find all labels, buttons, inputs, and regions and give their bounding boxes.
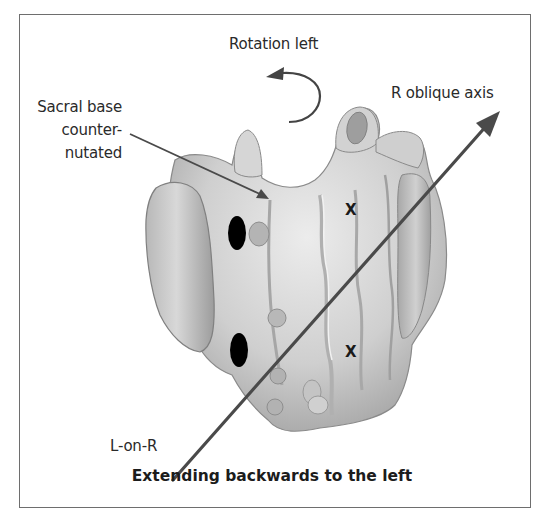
landmark-oval-lower bbox=[230, 333, 248, 367]
callout-line-1: Sacral base bbox=[32, 98, 122, 116]
rotation-left-label: Rotation left bbox=[229, 35, 318, 53]
l-on-r-label: L-on-R bbox=[110, 437, 157, 455]
sacrum-bone bbox=[146, 107, 447, 431]
callout-line-3: nutated bbox=[32, 144, 122, 162]
rotation-left-arrow bbox=[266, 67, 320, 122]
x-marker-upper: X bbox=[345, 201, 357, 219]
figure-caption: Extending backwards to the left bbox=[0, 467, 544, 485]
x-marker-lower: X bbox=[345, 343, 357, 361]
oblique-axis-label: R oblique axis bbox=[391, 84, 494, 102]
callout-line-2: counter- bbox=[32, 121, 122, 139]
landmark-oval-upper bbox=[228, 216, 246, 250]
sacrum-illustration: X X bbox=[0, 0, 544, 520]
